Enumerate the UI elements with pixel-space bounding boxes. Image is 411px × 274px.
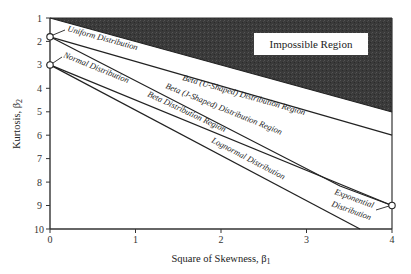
svg-text:1: 1 [37,13,42,24]
exponential-point [389,202,395,208]
svg-text:8: 8 [37,177,42,188]
x-tick-labels: 0 1 2 3 4 [48,234,395,245]
svg-text:9: 9 [37,200,42,211]
svg-text:4: 4 [37,83,42,94]
svg-text:6: 6 [37,130,42,141]
svg-text:1: 1 [133,234,138,245]
y-axis-title: Kurtosis, β2 [11,99,24,149]
normal-leader [53,57,62,63]
svg-text:2: 2 [37,36,42,47]
normal-point [47,62,53,68]
svg-text:7: 7 [37,153,42,164]
svg-text:4: 4 [390,234,395,245]
impossible-region-label: Impossible Region [270,38,353,50]
normal-label: Normal Distribution [61,49,130,85]
svg-text:3: 3 [37,59,42,70]
svg-text:10: 10 [34,224,44,235]
uniform-point [47,34,53,40]
x-axis-title: Square of Skewness, β1 [171,253,270,266]
exponential-leader [376,206,389,210]
svg-text:5: 5 [37,106,42,117]
chart: Impossible Region 1 2 3 4 5 6 7 8 9 10 [0,0,411,274]
svg-text:3: 3 [304,234,309,245]
svg-text:2: 2 [219,234,224,245]
uniform-leader [53,30,65,35]
svg-text:0: 0 [48,234,53,245]
y-tick-labels: 1 2 3 4 5 6 7 8 9 10 [34,13,44,235]
